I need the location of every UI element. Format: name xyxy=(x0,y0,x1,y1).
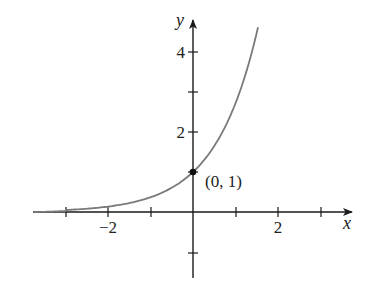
point-label: (0, 1) xyxy=(205,172,242,191)
x-tick-label-2: 2 xyxy=(274,218,283,237)
y-axis-label: y xyxy=(174,10,184,30)
x-axis-label: x xyxy=(342,213,351,233)
exponential-graph: −2 2 2 4 x y (0, 1) xyxy=(0,0,383,302)
y-tick-label-4: 4 xyxy=(177,43,186,62)
y-tick-label-2: 2 xyxy=(177,123,186,142)
x-tick-label-neg2: −2 xyxy=(99,218,117,237)
point-marker xyxy=(190,169,197,176)
